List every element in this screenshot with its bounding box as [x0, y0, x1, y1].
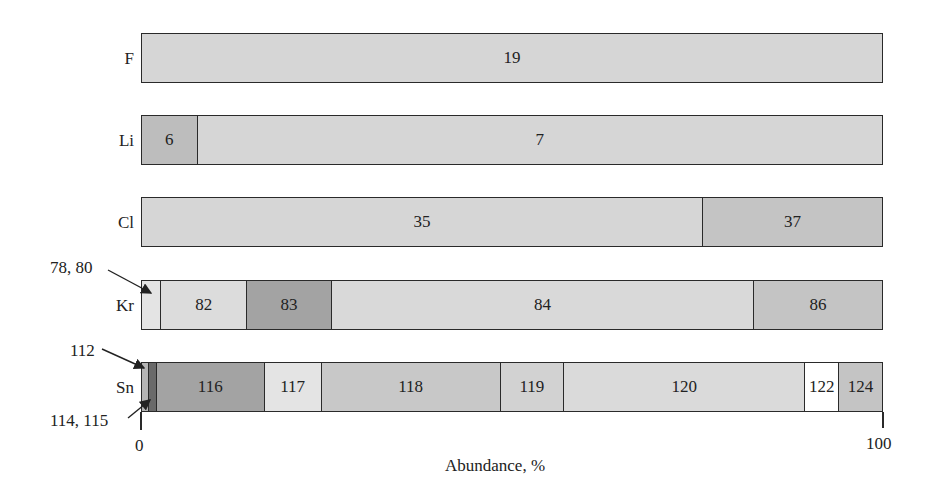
tick-label-100: 100: [866, 434, 892, 454]
axis-tick-100: [882, 412, 884, 428]
axis-tick-0: [140, 412, 142, 430]
x-axis-label: Abundance, %: [445, 456, 545, 476]
tick-label-0: 0: [135, 436, 144, 456]
